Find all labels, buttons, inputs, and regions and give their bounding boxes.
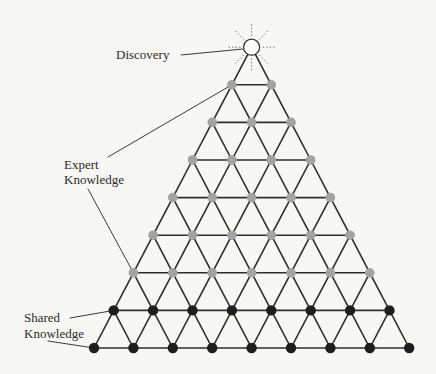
grid-edge: [232, 310, 252, 348]
leader-discovery: [181, 49, 243, 55]
grid-edge: [291, 122, 311, 160]
grid-edge: [133, 310, 153, 348]
grid-edge: [153, 310, 173, 348]
shared-knowledge-node: [109, 305, 119, 315]
grid-edge: [271, 198, 291, 236]
expert-knowledge-node: [148, 230, 158, 240]
shared-knowledge-node: [148, 305, 158, 315]
expert-knowledge-node: [227, 155, 237, 165]
grid-edge: [291, 198, 311, 236]
grid-edge: [370, 310, 390, 348]
shared-knowledge-node: [345, 305, 355, 315]
grid-edge: [271, 310, 291, 348]
grid-edge: [173, 160, 193, 198]
shared-knowledge-node: [306, 305, 316, 315]
grid-edge: [193, 273, 213, 311]
grid-edge: [330, 273, 350, 311]
grid-edge: [350, 273, 370, 311]
grid-edge: [232, 85, 252, 123]
grid-edge: [370, 273, 390, 311]
expert-knowledge-node: [168, 193, 178, 203]
shared-knowledge-node: [286, 343, 296, 353]
expert-knowledge-node: [227, 80, 237, 90]
grid-edge: [173, 198, 193, 236]
expert-knowledge-node: [286, 193, 296, 203]
grid-edge: [311, 310, 331, 348]
expert-knowledge-node: [129, 268, 139, 278]
grid-edge: [252, 273, 272, 311]
grid-edge: [114, 273, 134, 311]
expert-knowledge-node: [207, 193, 217, 203]
shared-knowledge-node: [187, 305, 197, 315]
expert-knowledge-node: [168, 268, 178, 278]
grid-edge: [193, 198, 213, 236]
grid-edge: [390, 310, 410, 348]
expert-knowledge-node: [267, 230, 277, 240]
grid-edge: [252, 235, 272, 273]
shared-knowledge-node: [246, 343, 256, 353]
label-expert-line2: Knowledge: [64, 172, 124, 188]
shared-knowledge-node: [325, 343, 335, 353]
grid-edge: [232, 160, 252, 198]
discovery-node: [244, 39, 260, 55]
discovery-ray: [235, 55, 244, 64]
shared-knowledge-node: [404, 343, 414, 353]
grid-edge: [212, 235, 232, 273]
grid-edge: [133, 235, 153, 273]
shared-knowledge-node: [168, 343, 178, 353]
grid-edge: [153, 235, 173, 273]
grid-edge: [94, 310, 114, 348]
grid-edge: [212, 310, 232, 348]
grid-edge: [350, 310, 370, 348]
shared-knowledge-node: [384, 305, 394, 315]
grid-edge: [330, 198, 350, 236]
grid-edge: [311, 235, 331, 273]
grid-edge: [193, 122, 213, 160]
expert-knowledge-node: [227, 230, 237, 240]
grid-edge: [153, 273, 173, 311]
shared-knowledge-node: [365, 343, 375, 353]
shared-knowledge-node: [266, 305, 276, 315]
grid-edge: [173, 273, 193, 311]
grid-edge: [173, 310, 193, 348]
grid-edge: [291, 235, 311, 273]
grid-edge: [350, 235, 370, 273]
shared-knowledge-node: [89, 343, 99, 353]
expert-knowledge-node: [188, 155, 198, 165]
discovery-ray: [259, 55, 268, 64]
grid-edge: [311, 198, 331, 236]
expert-knowledge-node: [247, 193, 257, 203]
grid-edge: [271, 122, 291, 160]
grid-edge: [232, 122, 252, 160]
grid-edge: [212, 160, 232, 198]
grid-edge: [153, 198, 173, 236]
grid-edge: [212, 273, 232, 311]
expert-knowledge-node: [207, 118, 217, 128]
leader-shared-bottom: [48, 341, 94, 348]
grid-edge: [193, 310, 213, 348]
expert-knowledge-node: [188, 230, 198, 240]
shared-knowledge-node: [227, 305, 237, 315]
expert-knowledge-node: [306, 155, 316, 165]
expert-knowledge-node: [365, 268, 375, 278]
grid-edge: [271, 160, 291, 198]
label-shared-line1: Shared: [24, 310, 60, 326]
grid-edge: [212, 198, 232, 236]
grid-edge: [271, 85, 291, 123]
grid-edge: [330, 235, 350, 273]
grid-edge: [212, 122, 232, 160]
expert-knowledge-node: [326, 193, 336, 203]
expert-knowledge-node: [247, 118, 257, 128]
grid-edge: [311, 273, 331, 311]
label-expert-line1: Expert: [64, 157, 99, 173]
expert-knowledge-node: [306, 230, 316, 240]
label-shared-line2: Knowledge: [24, 326, 84, 342]
grid-edge: [271, 235, 291, 273]
expert-knowledge-node: [267, 155, 277, 165]
grid-edge: [193, 235, 213, 273]
discovery-ray: [235, 30, 244, 39]
grid-edge: [291, 160, 311, 198]
grid-edge: [271, 273, 291, 311]
grid-edge: [330, 310, 350, 348]
grid-edge: [232, 235, 252, 273]
